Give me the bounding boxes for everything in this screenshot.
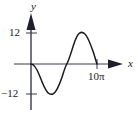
y-tick-label-minus-12: −12 xyxy=(1,88,18,99)
y-axis-label: y xyxy=(31,1,36,12)
x-axis-label: x xyxy=(128,58,133,69)
sine-curve xyxy=(31,32,97,94)
x-axis-arrowhead xyxy=(108,60,123,69)
x-tick-label-10pi: 10π xyxy=(88,71,105,82)
graph-figure: y x 12 −12 10π xyxy=(0,0,138,115)
y-axis-arrowhead xyxy=(27,13,36,30)
y-tick-label-12: 12 xyxy=(9,27,20,38)
plot-canvas xyxy=(0,0,138,115)
